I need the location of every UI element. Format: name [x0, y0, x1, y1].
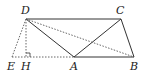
label-C: C: [116, 4, 125, 17]
label-E: E: [6, 60, 15, 73]
segment-DB: [26, 19, 134, 57]
label-D: D: [20, 4, 30, 17]
right-angle-marker: [26, 53, 30, 57]
segment-CB: [121, 19, 134, 57]
segment-DE: [12, 19, 26, 57]
label-H: H: [20, 60, 31, 73]
label-A: A: [69, 60, 78, 73]
label-B: B: [129, 60, 138, 73]
segment-DA: [26, 19, 74, 57]
trapezoid-diagram: D C A B E H: [0, 0, 146, 81]
geometry-figure: D C A B E H: [0, 0, 146, 81]
